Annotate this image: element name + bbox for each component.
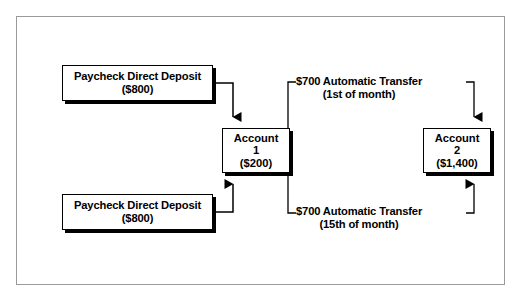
account-2-label: Account — [435, 132, 480, 145]
edge-transfer-top-left-riser — [288, 82, 296, 128]
node-account-1[interactable]: Account 1 ($200) — [222, 128, 290, 173]
edge-transfer-top-right-drop — [466, 82, 474, 117]
account-1-amount: ($200) — [240, 157, 272, 170]
edge-transfer-bottom-left-drop — [288, 172, 296, 213]
deposit-bottom-amount: ($800) — [122, 212, 153, 225]
account-1-label: Account — [234, 132, 279, 145]
transfer-top-schedule: (1st of month) — [296, 88, 422, 101]
account-2-amount: ($1,400) — [436, 157, 478, 170]
transfer-bottom-amount-text: $700 Automatic Transfer — [296, 205, 422, 217]
edge-deposit-bottom-to-account1 — [214, 184, 233, 212]
deposit-top-label: Paycheck Direct Deposit — [74, 70, 201, 83]
edge-label-transfer-15th: $700 Automatic Transfer (15th of month) — [296, 205, 422, 231]
node-paycheck-direct-deposit-top[interactable]: Paycheck Direct Deposit ($800) — [62, 65, 213, 101]
account-2-number: 2 — [454, 144, 460, 157]
diagram-canvas: Paycheck Direct Deposit ($800) Paycheck … — [0, 0, 524, 300]
edge-transfer-bottom-right-riser — [466, 184, 474, 213]
edge-deposit-top-to-account1 — [214, 83, 233, 117]
deposit-bottom-label: Paycheck Direct Deposit — [74, 199, 201, 212]
deposit-top-amount: ($800) — [122, 83, 153, 96]
node-paycheck-direct-deposit-bottom[interactable]: Paycheck Direct Deposit ($800) — [62, 194, 213, 230]
account-1-number: 1 — [253, 144, 259, 157]
edge-label-transfer-1st: $700 Automatic Transfer (1st of month) — [296, 75, 422, 101]
node-account-2[interactable]: Account 2 ($1,400) — [423, 128, 491, 173]
transfer-top-amount-text: $700 Automatic Transfer — [296, 75, 422, 87]
transfer-bottom-schedule: (15th of month) — [296, 218, 422, 231]
